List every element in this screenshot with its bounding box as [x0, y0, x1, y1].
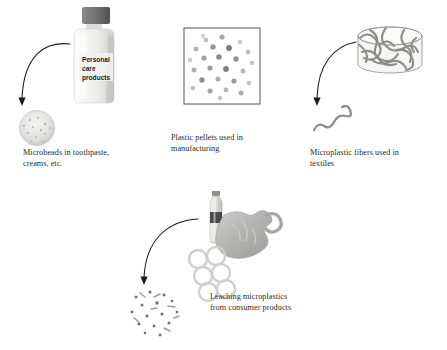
pellet-box-icon — [184, 28, 260, 104]
caption-leaching: Leaching microplastics from consumer pro… — [210, 292, 360, 313]
arrow-bottle-to-microbeads — [18, 44, 70, 106]
panel-microbeads: Personal care products — [0, 0, 160, 180]
bottle-label-line-2: care — [82, 65, 96, 72]
caption-microbeads: Microbeads in toothpaste, creams, etc. — [23, 148, 153, 169]
textile-cylinder-icon — [358, 27, 422, 73]
microbead-dish-icon — [20, 111, 55, 146]
panel-leaching: Leaching microplastics from consumer pro… — [120, 185, 380, 350]
caption-fibers: Microplastic fibers used in textiles — [310, 148, 440, 169]
arrow-textile-to-fiber — [313, 42, 356, 106]
plastic-bag-icon — [216, 210, 282, 258]
microplastics-sources-diagram: Personal care products — [0, 0, 447, 350]
caption-pellets: Plastic pellets used in manufacturing — [171, 133, 291, 154]
panel-pellets: Plastic pellets used in manufacturing — [160, 0, 300, 180]
bottle-label-line-1: Personal — [82, 56, 110, 63]
arrow-products-to-microplastics — [140, 219, 198, 285]
microfiber-squiggle-icon — [314, 106, 351, 130]
panel-fibers: Microplastic fibers used in textiles — [300, 0, 447, 180]
bottle-label-line-3: products — [82, 74, 111, 82]
scattered-microplastics-icon — [131, 290, 179, 336]
panel-leaching-graphic — [120, 185, 380, 350]
